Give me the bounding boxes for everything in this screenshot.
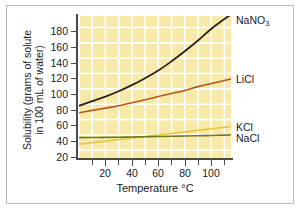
- y-tick-label-120: 120: [50, 72, 68, 84]
- curve-licl: [79, 79, 231, 113]
- y-tick-60: [71, 125, 76, 126]
- series-curves: [79, 16, 231, 158]
- x-axis-line: [76, 158, 233, 160]
- y-axis-title-line1: Solubility (grams of solute: [21, 15, 33, 165]
- y-tick-100: [71, 94, 76, 95]
- x-tick-10: [92, 160, 93, 165]
- y-tick-140: [71, 63, 76, 64]
- x-tick-label-100: 100: [198, 167, 224, 179]
- y-tick-label-100: 100: [50, 88, 68, 100]
- y-tick-40: [71, 141, 76, 142]
- x-tick-20: [105, 160, 106, 166]
- x-tick-30: [118, 160, 119, 165]
- x-tick-label-80: 80: [175, 167, 195, 179]
- y-tick-label-20: 20: [56, 151, 68, 163]
- x-tick-40: [132, 160, 133, 166]
- y-tick-label-160: 160: [50, 41, 68, 53]
- y-tick-180: [71, 31, 76, 32]
- series-label-nano3-subscript: 3: [265, 19, 269, 28]
- x-tick-80: [185, 160, 186, 166]
- y-axis-title-line2: in 100 mL of water): [33, 15, 45, 165]
- y-tick-label-80: 80: [56, 104, 68, 116]
- y-tick-label-180: 180: [50, 25, 68, 37]
- plot-wrapper: 180 160 140 120 100 80 60 40 20 20 40 60…: [0, 0, 303, 213]
- x-tick-label-40: 40: [122, 167, 142, 179]
- curve-nano3: [79, 16, 231, 106]
- x-tick-label-60: 60: [148, 167, 168, 179]
- series-label-licl: LiCl: [236, 73, 254, 85]
- x-tick-110: [224, 160, 225, 165]
- x-tick-label-20: 20: [95, 167, 115, 179]
- y-tick-label-140: 140: [50, 57, 68, 69]
- x-tick-60: [158, 160, 159, 166]
- x-tick-90: [198, 160, 199, 165]
- y-tick-20: [71, 157, 76, 158]
- x-axis-title: Temperature °C: [79, 182, 231, 194]
- plot-area: [79, 16, 231, 158]
- y-axis-line: [76, 14, 78, 160]
- series-label-nano3: NaNO3: [236, 14, 269, 26]
- y-tick-120: [71, 78, 76, 79]
- x-tick-70: [171, 160, 172, 165]
- y-axis-title: Solubility (grams of solute in 100 mL of…: [21, 15, 45, 165]
- x-tick-50: [145, 160, 146, 165]
- y-tick-160: [71, 47, 76, 48]
- y-tick-label-60: 60: [56, 119, 68, 131]
- series-label-nacl: NaCl: [236, 132, 259, 144]
- series-label-nano3-text: NaNO: [236, 14, 265, 26]
- x-tick-100: [211, 160, 212, 166]
- y-tick-80: [71, 110, 76, 111]
- y-tick-label-40: 40: [56, 135, 68, 147]
- solubility-chart-figure: 180 160 140 120 100 80 60 40 20 20 40 60…: [0, 0, 303, 213]
